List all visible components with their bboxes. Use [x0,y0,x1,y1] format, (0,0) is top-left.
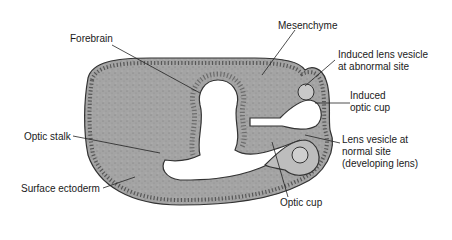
label-lens-normal-2: normal site [342,146,391,158]
label-optic-cup: Optic cup [280,197,322,209]
label-induced-cup-1: Induced [350,90,386,102]
label-surface-ectoderm: Surface ectoderm [21,183,100,195]
label-mesenchyme: Mesenchyme [278,20,337,32]
label-lens-normal-1: Lens vesicle at [342,134,408,146]
label-induced-lens-1: Induced lens vesicle [338,49,428,61]
label-lens-normal-3: (developing lens) [342,158,418,170]
lens-vesicle-normal [292,147,308,163]
label-forebrain: Forebrain [70,33,113,45]
label-induced-lens-2: at abnormal site [338,61,409,73]
induced-lens-vesicle [298,84,314,100]
label-optic-stalk: Optic stalk [24,131,71,143]
label-induced-cup-2: optic cup [350,102,390,114]
